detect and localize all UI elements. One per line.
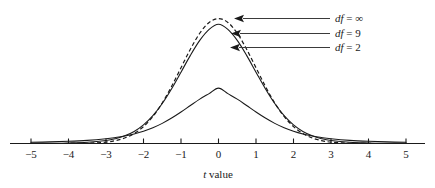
- x-axis-title: t value: [203, 168, 233, 180]
- x-axis-tick-label: 4: [366, 148, 372, 160]
- legend-label-df-infinity: df = ∞: [335, 12, 363, 24]
- annotation-leaders: [230, 15, 330, 51]
- arrowhead-df-infinity-icon: [234, 15, 244, 22]
- x-axis-tick-label: −1: [175, 148, 187, 160]
- x-axis-tick-labels: −5−4−3−2−1012345: [25, 148, 409, 160]
- x-axis-tick-label: 3: [328, 148, 334, 160]
- x-axis-tick-label: 0: [216, 148, 222, 160]
- annotation-labels: df = ∞ df = 9 df = 2: [335, 12, 363, 53]
- legend-label-df-9: df = 9: [335, 27, 361, 39]
- legend-label-df-2-rest: = 2: [344, 41, 361, 53]
- x-axis-tick-label: −3: [100, 148, 112, 160]
- x-axis-tick-label: −4: [63, 148, 75, 160]
- x-axis-tick-label: −2: [138, 148, 150, 160]
- legend-label-df-2: df = 2: [335, 41, 361, 53]
- x-axis-title-rest: value: [206, 168, 233, 180]
- x-axis-tick-label: 2: [291, 148, 297, 160]
- x-axis-tick-label: 5: [403, 148, 409, 160]
- legend-label-df-9-rest: = 9: [344, 27, 362, 39]
- legend-label-df-infinity-rest: = ∞: [344, 12, 364, 24]
- curve-df-2: [31, 88, 406, 142]
- arrowhead-df-2-icon: [230, 44, 240, 51]
- t-distribution-chart: −5−4−3−2−1012345 t value df = ∞ df = 9 d…: [0, 0, 435, 188]
- x-axis-tick-label: 1: [253, 148, 259, 160]
- x-axis-tick-label: −5: [25, 148, 37, 160]
